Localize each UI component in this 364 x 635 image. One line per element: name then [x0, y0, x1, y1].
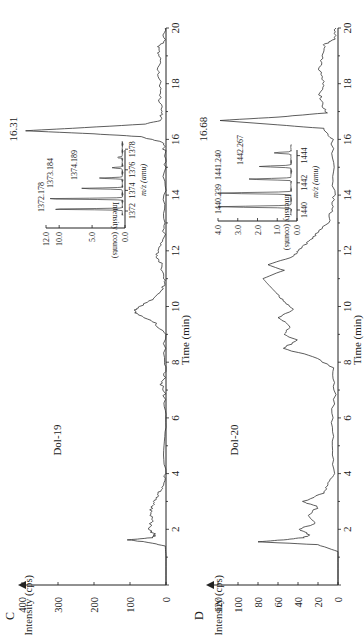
- inset-intensity-tick-label: 5.0: [88, 232, 97, 242]
- inset-intensity-tick-label: 12.0: [42, 232, 51, 246]
- panel-c: 2468101214161820 0100200300400 C Intensi…: [3, 22, 181, 635]
- panel-c-inset-peak-label-2: 1373.184: [46, 158, 55, 188]
- panel-d-inset-xlabel: m/z (amu): [311, 166, 320, 199]
- intensity-tick-label: 20: [313, 597, 324, 608]
- time-tick-label: 10: [341, 301, 353, 313]
- inset-mass-spectrum-trace: [218, 145, 292, 216]
- time-tick-label: 20: [341, 22, 353, 34]
- inset-intensity-tick-label: 0.0: [293, 225, 302, 235]
- panel-c-time-ticks: 2468101214161820: [166, 22, 181, 585]
- time-tick-label: 14: [169, 189, 181, 201]
- inset-mz-tick-label: 1374: [128, 182, 137, 198]
- panel-d-inset-ticks: 1440144214440.01.02.03.04.0: [214, 148, 309, 235]
- inset-intensity-tick-label: 2.0: [254, 225, 263, 235]
- panel-c-label: C: [3, 612, 17, 620]
- intensity-tick-label: 80: [253, 597, 264, 608]
- panel-c-inset-peak-label-1: 1372.178: [37, 182, 46, 212]
- panel-d-chromatogram-trace: [220, 28, 338, 585]
- inset-intensity-tick-label: 4.0: [214, 225, 223, 235]
- time-tick-label: 16: [169, 133, 181, 145]
- panel-d-inset-peak-label-1: 1440.239: [214, 184, 223, 214]
- panel-c-sample-label: Dol-19: [51, 424, 63, 456]
- panel-c-inset-xlabel: m/z (amu): [139, 164, 148, 197]
- panel-d-sample-label: Dol-20: [228, 424, 240, 456]
- time-tick-label: 20: [169, 22, 181, 34]
- inset-intensity-tick-label: 1.0: [273, 225, 282, 235]
- time-tick-label: 12: [341, 245, 353, 256]
- panel-d-ylabel: Intensity (cps): [213, 575, 225, 635]
- intensity-tick-label: 300: [53, 597, 64, 613]
- time-tick-label: 2: [169, 527, 181, 533]
- panel-d-inset: 1440144214440.01.02.03.04.0 Intensity (c…: [214, 135, 320, 250]
- panel-c-ylabel: Intensity (cps): [23, 575, 35, 635]
- time-axis-label: Time (min): [179, 315, 192, 365]
- time-tick-label: 18: [341, 78, 353, 90]
- inset-mz-tick-label: 1372: [128, 203, 137, 219]
- inset-mz-tick-label: 1376: [128, 162, 137, 178]
- inset-mz-tick-label: 1440: [300, 202, 309, 218]
- panel-d-inset-peak-label-2: 1441.240: [214, 150, 223, 180]
- time-tick-label: 12: [169, 245, 181, 256]
- intensity-tick-label: 60: [273, 597, 284, 608]
- panel-d-time-ticks: 2468101214161820: [338, 22, 353, 585]
- inset-mz-tick-label: 1444: [300, 148, 309, 164]
- inset-intensity-tick-label: 0.0: [121, 232, 130, 242]
- time-tick-label: 14: [341, 189, 353, 201]
- panel-d: 2468101214161820 020406080100120 D Inten…: [179, 22, 364, 635]
- chromatogram-figure: 2468101214161820 0100200300400 C Intensi…: [0, 0, 364, 635]
- panel-c-peak-label: 16.31: [7, 117, 19, 142]
- time-tick-label: 2: [341, 527, 353, 533]
- time-tick-label: 18: [169, 78, 181, 90]
- panel-c-inset: 13721374137613780.05.010.012.0 Intensity…: [37, 141, 148, 258]
- inset-intensity-tick-label: 3.0: [234, 225, 243, 235]
- inset-mz-tick-label: 1378: [128, 141, 137, 157]
- panel-d-inset-peaks: [218, 145, 292, 216]
- inset-mz-tick-label: 1442: [300, 175, 309, 191]
- panel-c-inset-peak-label-3: 1374.189: [70, 150, 79, 180]
- time-tick-label: 10: [169, 301, 181, 313]
- panel-d-label: D: [192, 611, 206, 620]
- time-tick-label: 4: [341, 470, 353, 476]
- panel-d-inset-peak-label-3: 1442.267: [236, 135, 245, 165]
- panel-d-intensity-ticks: 020406080100120: [213, 582, 344, 613]
- panel-c-chromatogram-trace: [26, 28, 166, 585]
- time-tick-label: 4: [169, 470, 181, 476]
- time-tick-label: 16: [341, 133, 353, 145]
- intensity-tick-label: 0: [333, 597, 344, 602]
- panel-c-inset-ylabel: Intensity (counts): [111, 202, 120, 259]
- intensity-tick-label: 200: [89, 597, 100, 613]
- time-tick-label: 6: [169, 415, 181, 421]
- intensity-tick-label: 100: [233, 597, 244, 613]
- panel-d-time-axis-label: Time (min): [351, 315, 364, 365]
- intensity-tick-label: 100: [125, 597, 136, 613]
- panel-c-intensity-ticks: 0100200300400: [17, 582, 172, 613]
- inset-intensity-tick-label: 10.0: [55, 232, 64, 246]
- intensity-tick-label: 40: [293, 597, 304, 608]
- panel-d-peak-label: 16.68: [197, 116, 209, 141]
- time-tick-label: 6: [341, 415, 353, 421]
- panel-d-inset-ylabel: Intensity (counts): [283, 194, 292, 251]
- intensity-tick-label: 0: [161, 597, 172, 602]
